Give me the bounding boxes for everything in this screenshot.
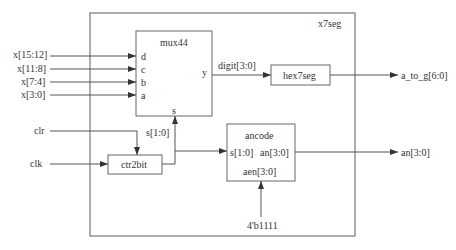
mux44-port-d: d [141,51,146,62]
wire-s-to-mux [162,116,175,164]
input-x-7-4: x[7:4] [21,76,45,87]
ancode-port-s: s[1:0] [230,147,253,158]
wire-clr [50,131,137,155]
hex7seg-label: hex7seg [283,70,316,81]
mux44-label: mux44 [160,37,188,48]
input-x-3-0: x[3:0] [21,89,45,100]
mux44-port-a: a [141,90,146,101]
ancode-port-an: an[3:0] [260,147,289,158]
signal-const-label: 4'b1111 [247,220,278,231]
mux44-port-c: c [141,64,146,75]
mux44-port-b: b [141,77,146,88]
ancode-label: ancode [245,130,274,141]
mux44-port-y: y [202,67,207,78]
ctr2bit-label: ctr2bit [121,159,147,170]
signal-digit-label: digit[3:0] [218,60,256,71]
input-x-11-8: x[11:8] [17,63,46,74]
ancode-port-aen: aen[3:0] [243,166,276,177]
x7seg-module-box [90,13,355,236]
x7seg-module-label: x7seg [318,18,341,29]
mux44-port-s: s [172,105,176,116]
signal-s-label: s[1:0] [146,127,169,138]
output-an: an[3:0] [401,147,430,158]
input-clr: clr [34,125,45,136]
input-clk: clk [30,158,42,169]
x7seg-block-diagram: x7seg mux44 d c b a y s x[15:12] x[11:8]… [0,0,456,250]
output-a-to-g: a_to_g[6:0] [401,70,448,81]
input-x-15-12: x[15:12] [13,49,47,60]
